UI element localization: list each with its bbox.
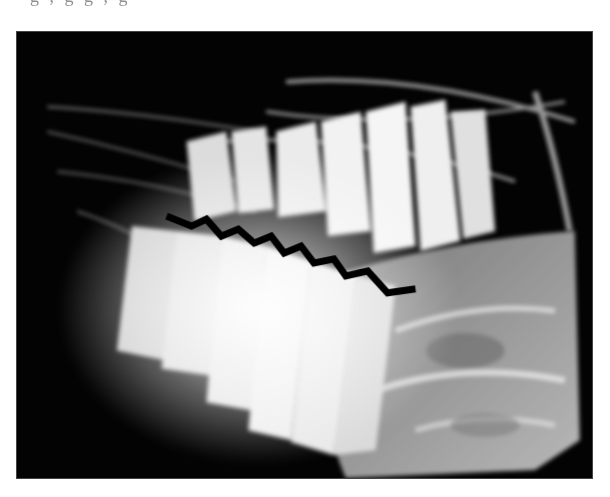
cropped-caption-bottom [0, 487, 610, 497]
dental-radiograph [16, 31, 593, 479]
cropped-caption-top: g , g g , g [0, 0, 610, 10]
cropped-caption-top-text: g , g g , g [30, 0, 131, 7]
radiograph-image [17, 32, 592, 478]
